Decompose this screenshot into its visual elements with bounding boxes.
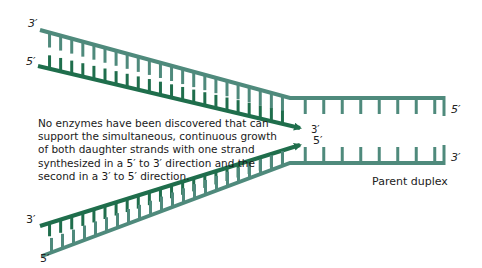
label-top-outer-3prime: 3′ bbox=[28, 18, 38, 29]
parent-duplex-rungs bbox=[305, 98, 435, 163]
figure-caption: No enzymes have been discovered that can… bbox=[38, 117, 288, 183]
label-parent-5prime: 5′ bbox=[451, 104, 461, 115]
replication-fork-diagram: 3′ 5′ 3′ 5′ 3′ 5′ 5′ 3′ No enzymes have … bbox=[0, 0, 482, 268]
top-parent-strand bbox=[40, 30, 444, 116]
top-parent-rungs bbox=[50, 33, 283, 112]
label-arrow-5prime: 5′ bbox=[313, 135, 323, 146]
parent-duplex-label: Parent duplex bbox=[372, 175, 448, 188]
label-top-inner-5prime: 5′ bbox=[26, 56, 36, 67]
label-bottom-outer-5prime: 5′ bbox=[40, 253, 50, 264]
label-bottom-inner-3prime: 3′ bbox=[26, 214, 36, 225]
label-parent-3prime: 3′ bbox=[451, 152, 461, 163]
